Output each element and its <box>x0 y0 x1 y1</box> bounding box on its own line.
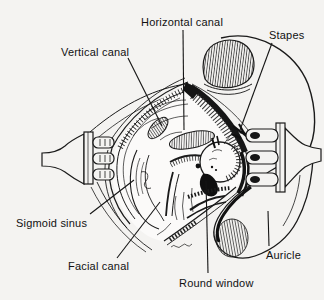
label-round-window: Round window <box>179 277 254 289</box>
label-stapes: Stapes <box>269 29 304 41</box>
anatomy-figure: Horizontal canal Stapes Vertical canal S… <box>0 0 324 300</box>
label-vertical-canal: Vertical canal <box>61 46 129 58</box>
label-horizontal-canal: Horizontal canal <box>141 16 223 28</box>
ear-canal-knob <box>203 40 254 88</box>
artist-signature <box>171 244 192 248</box>
left-retractor <box>42 132 114 184</box>
label-auricle: Auricle <box>266 249 301 261</box>
label-facial-canal: Facial canal <box>68 260 129 272</box>
label-sigmoid-sinus: Sigmoid sinus <box>16 217 87 229</box>
